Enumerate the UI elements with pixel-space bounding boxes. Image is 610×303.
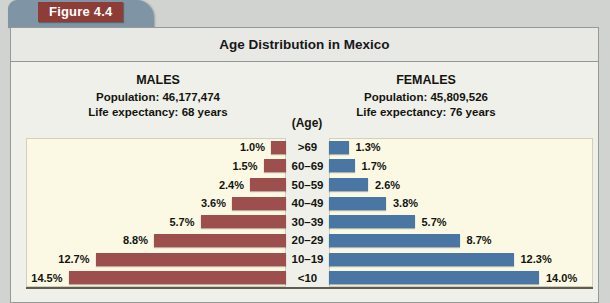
female-value-label: 1.7% bbox=[362, 160, 387, 172]
female-value-label: 1.3% bbox=[356, 141, 381, 153]
male-bar bbox=[232, 197, 286, 210]
pyramid-row: 14.5%<1014.0% bbox=[26, 268, 593, 287]
age-label-zone: 60–69 bbox=[286, 157, 329, 176]
female-bar-zone: 12.3% bbox=[329, 250, 593, 269]
male-bar bbox=[154, 234, 286, 247]
age-label-zone: 50–59 bbox=[286, 175, 329, 194]
figure-canvas: Figure 4.4 Age Distribution in Mexico MA… bbox=[0, 0, 610, 303]
pyramid-row: 1.0%>691.3% bbox=[26, 138, 593, 157]
males-heading: MALES bbox=[19, 73, 297, 87]
female-bar bbox=[329, 271, 539, 284]
pyramid-row: 12.7%10–1912.3% bbox=[26, 250, 593, 269]
pyramid-row: 3.6%40–493.8% bbox=[26, 194, 593, 213]
female-bar bbox=[329, 141, 349, 154]
pyramid-row: 1.5%60–691.7% bbox=[26, 157, 593, 176]
male-bar-zone: 2.4% bbox=[26, 175, 286, 194]
female-value-label: 5.7% bbox=[422, 216, 447, 228]
male-value-label: 12.7% bbox=[58, 253, 89, 265]
female-value-label: 3.8% bbox=[393, 197, 418, 209]
male-bar-zone: 5.7% bbox=[26, 213, 286, 232]
male-bar bbox=[96, 253, 287, 266]
female-bar bbox=[329, 234, 460, 247]
population-pyramid: 1.0%>691.3%1.5%60–691.7%2.4%50–592.6%3.6… bbox=[26, 138, 593, 290]
female-bar bbox=[329, 253, 514, 266]
age-group-label: >69 bbox=[298, 141, 318, 153]
pyramid-row: 2.4%50–592.6% bbox=[26, 175, 593, 194]
age-label-zone: 20–29 bbox=[286, 231, 329, 250]
age-group-label: 60–69 bbox=[292, 160, 324, 172]
female-bar-zone: 2.6% bbox=[329, 175, 593, 194]
age-group-label: 20–29 bbox=[292, 234, 324, 246]
male-value-label: 1.5% bbox=[232, 160, 257, 172]
male-bar-zone: 1.0% bbox=[26, 138, 286, 157]
female-bar-zone: 8.7% bbox=[329, 231, 593, 250]
age-group-label: 30–39 bbox=[292, 216, 324, 228]
male-bar bbox=[271, 141, 286, 154]
pyramid-rows: 1.0%>691.3%1.5%60–691.7%2.4%50–592.6%3.6… bbox=[26, 138, 593, 287]
female-bar bbox=[329, 215, 415, 228]
male-bar bbox=[201, 215, 287, 228]
female-bar bbox=[329, 197, 386, 210]
pyramid-row: 5.7%30–395.7% bbox=[26, 213, 593, 232]
male-bar bbox=[69, 271, 287, 284]
males-life-expectancy: Life expectancy: 68 years bbox=[19, 105, 297, 120]
age-label-zone: <10 bbox=[286, 268, 329, 287]
male-bar-zone: 8.8% bbox=[26, 231, 286, 250]
male-value-label: 1.0% bbox=[240, 141, 265, 153]
male-value-label: 5.7% bbox=[169, 216, 194, 228]
age-group-label: 10–19 bbox=[292, 253, 324, 265]
age-label-zone: 10–19 bbox=[286, 250, 329, 269]
female-value-label: 2.6% bbox=[375, 179, 400, 191]
figure-panel: Age Distribution in Mexico MALES Populat… bbox=[10, 27, 599, 303]
title-band: Age Distribution in Mexico bbox=[11, 28, 598, 62]
figure-title: Age Distribution in Mexico bbox=[219, 37, 389, 52]
male-bar bbox=[250, 178, 286, 191]
male-value-label: 14.5% bbox=[31, 272, 62, 284]
females-population: Population: 45,809,526 bbox=[286, 90, 566, 105]
age-label-zone: 40–49 bbox=[286, 194, 329, 213]
female-bar-zone: 1.3% bbox=[329, 138, 593, 157]
male-bar-zone: 1.5% bbox=[26, 157, 286, 176]
age-group-label: <10 bbox=[298, 272, 318, 284]
female-bar-zone: 14.0% bbox=[329, 268, 593, 287]
male-value-label: 2.4% bbox=[219, 179, 244, 191]
female-value-label: 12.3% bbox=[521, 253, 552, 265]
male-bar-zone: 14.5% bbox=[26, 268, 286, 287]
figure-content: MALES Population: 46,177,474 Life expect… bbox=[11, 62, 598, 303]
female-bar-zone: 5.7% bbox=[329, 213, 593, 232]
age-label-zone: 30–39 bbox=[286, 213, 329, 232]
pyramid-row: 8.8%20–298.7% bbox=[26, 231, 593, 250]
pyramid-baseline bbox=[26, 287, 593, 289]
male-bar bbox=[264, 159, 287, 172]
male-value-label: 8.8% bbox=[123, 234, 148, 246]
age-group-label: 40–49 bbox=[292, 197, 324, 209]
female-bar-zone: 1.7% bbox=[329, 157, 593, 176]
female-value-label: 8.7% bbox=[467, 234, 492, 246]
figure-tab: Figure 4.4 bbox=[8, 0, 154, 28]
males-population: Population: 46,177,474 bbox=[19, 90, 297, 105]
female-bar bbox=[329, 178, 368, 191]
age-label-zone: >69 bbox=[286, 138, 329, 157]
female-bar-zone: 3.8% bbox=[329, 194, 593, 213]
age-axis-label: (Age) bbox=[272, 116, 342, 130]
female-value-label: 14.0% bbox=[546, 272, 577, 284]
male-bar-zone: 12.7% bbox=[26, 250, 286, 269]
figure-number-label: Figure 4.4 bbox=[38, 2, 123, 22]
male-value-label: 3.6% bbox=[201, 197, 226, 209]
female-bar bbox=[329, 159, 355, 172]
females-header: FEMALES Population: 45,809,526 Life expe… bbox=[286, 73, 566, 120]
male-bar-zone: 3.6% bbox=[26, 194, 286, 213]
males-header: MALES Population: 46,177,474 Life expect… bbox=[19, 73, 297, 120]
females-heading: FEMALES bbox=[286, 73, 566, 87]
age-group-label: 50–59 bbox=[292, 179, 324, 191]
